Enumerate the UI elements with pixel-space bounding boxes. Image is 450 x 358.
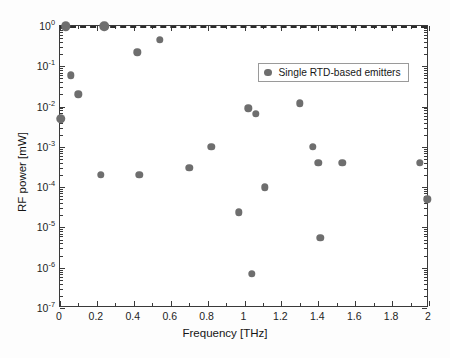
y-axis-tick (422, 147, 427, 148)
y-axis-minor-tick (424, 30, 427, 31)
y-axis-minor-tick (60, 270, 63, 271)
y-axis-minor-tick (60, 42, 63, 43)
y-axis-minor-tick (424, 231, 427, 232)
y-axis-minor-tick (424, 229, 427, 230)
y-axis-minor-tick (424, 123, 427, 124)
y-axis-minor-tick (60, 159, 63, 160)
y-axis-minor-tick (424, 73, 427, 74)
x-axis-minor-tick (152, 303, 153, 306)
x-tick-label: 0.2 (89, 310, 104, 322)
y-axis-minor-tick (60, 272, 63, 273)
x-tick-label: 0 (56, 310, 62, 322)
y-axis-title: RF power [mW] (16, 87, 28, 257)
y-axis-minor-tick (424, 236, 427, 237)
y-axis-minor-tick (424, 119, 427, 120)
y-axis-minor-tick (424, 35, 427, 36)
x-tick-label: 1.2 (273, 310, 288, 322)
x-tick-label: 0.6 (162, 310, 177, 322)
y-axis-minor-tick (424, 47, 427, 48)
x-tick-label: 1.4 (310, 310, 325, 322)
y-axis-minor-tick (60, 35, 63, 36)
y-axis-minor-tick (424, 277, 427, 278)
y-axis-minor-tick (424, 70, 427, 71)
data-point (156, 36, 163, 43)
y-axis-minor-tick (60, 277, 63, 278)
y-axis-minor-tick (60, 191, 63, 192)
y-axis-minor-tick (60, 75, 63, 76)
y-axis-minor-tick (60, 199, 63, 200)
legend-circle-marker-icon (264, 69, 272, 77)
x-axis-minor-tick (226, 303, 227, 306)
y-axis-minor-tick (60, 229, 63, 230)
y-axis-minor-tick (60, 215, 63, 216)
x-axis-tick (355, 301, 356, 306)
y-axis-minor-tick (424, 175, 427, 176)
data-point (315, 159, 322, 166)
y-axis-minor-tick (60, 256, 63, 257)
y-tick-label: 10-1 (21, 59, 55, 73)
x-axis-tick (134, 301, 135, 306)
y-tick-label: 100 (21, 18, 55, 32)
data-point (423, 196, 430, 203)
figure-canvas: 10010-110-210-310-410-510-610-7 Single R… (0, 0, 450, 358)
y-axis-minor-tick (424, 78, 427, 79)
threshold-line-1mw (60, 26, 427, 28)
legend[interactable]: Single RTD-based emitters (258, 63, 409, 82)
y-axis-minor-tick (424, 108, 427, 109)
y-axis-minor-tick (60, 82, 63, 83)
x-tick-label: 1 (241, 310, 247, 322)
y-axis-minor-tick (60, 203, 63, 204)
data-point (97, 171, 104, 178)
y-axis-minor-tick (424, 215, 427, 216)
data-point (296, 100, 303, 107)
y-axis-tick (60, 227, 65, 228)
y-axis-minor-tick (424, 163, 427, 164)
y-axis-minor-tick (60, 274, 63, 275)
x-axis-tick (208, 301, 209, 306)
y-axis-minor-tick (424, 153, 427, 154)
y-axis-tick (60, 308, 65, 309)
y-axis-tick (60, 66, 65, 67)
y-axis-minor-tick (424, 151, 427, 152)
y-axis-minor-tick (424, 32, 427, 33)
x-axis-minor-tick (374, 303, 375, 306)
y-axis-minor-tick (424, 68, 427, 69)
x-tick-label: 1.8 (384, 310, 399, 322)
x-axis-tick (318, 301, 319, 306)
data-point (208, 143, 215, 150)
x-axis-minor-tick (337, 303, 338, 306)
y-axis-minor-tick (60, 38, 63, 39)
data-point (67, 72, 74, 79)
data-point (316, 234, 323, 241)
y-axis-minor-tick (60, 196, 63, 197)
y-axis-minor-tick (60, 234, 63, 235)
data-point (339, 159, 346, 166)
x-axis-title: Frequency [THz] (0, 327, 450, 339)
y-axis-minor-tick (424, 296, 427, 297)
y-axis-minor-tick (424, 168, 427, 169)
data-point (134, 49, 141, 56)
data-point (185, 164, 192, 171)
data-point (136, 171, 143, 178)
x-axis-tick (392, 301, 393, 306)
data-point (416, 159, 423, 166)
y-axis-minor-tick (424, 280, 427, 281)
y-axis-minor-tick (60, 78, 63, 79)
x-axis-minor-tick (115, 303, 116, 306)
y-axis-tick (422, 66, 427, 67)
y-axis-minor-tick (424, 87, 427, 88)
y-axis-minor-tick (424, 274, 427, 275)
data-point (248, 270, 255, 277)
y-axis-minor-tick (60, 163, 63, 164)
y-axis-minor-tick (60, 156, 63, 157)
y-axis-minor-tick (60, 243, 63, 244)
y-axis-minor-tick (60, 168, 63, 169)
data-point (56, 114, 66, 124)
y-axis-minor-tick (424, 110, 427, 111)
y-axis-tick (60, 187, 65, 188)
y-axis-minor-tick (60, 54, 63, 55)
y-axis-tick (422, 227, 427, 228)
y-axis-title-holder: RF power [mW] (0, 0, 1, 1)
y-axis-tick (422, 107, 427, 108)
y-axis-minor-tick (60, 175, 63, 176)
